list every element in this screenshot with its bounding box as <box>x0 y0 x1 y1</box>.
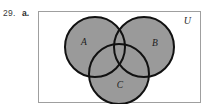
set-label-b: B <box>152 38 158 48</box>
universal-set-label: U <box>184 15 191 26</box>
figure-page: 29. a. A B C U <box>0 0 205 110</box>
set-label-c: C <box>117 80 124 90</box>
exercise-number: 29. <box>3 8 16 18</box>
exercise-part-letter: a. <box>22 8 29 18</box>
universal-set-rectangle: A B C U <box>38 11 201 103</box>
venn-diagram: A B C <box>39 12 202 104</box>
set-label-a: A <box>80 37 87 47</box>
